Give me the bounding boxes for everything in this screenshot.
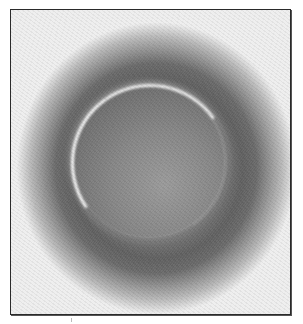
scan-mark — [71, 318, 72, 322]
grain-texture — [11, 10, 290, 314]
image-frame — [10, 9, 291, 315]
